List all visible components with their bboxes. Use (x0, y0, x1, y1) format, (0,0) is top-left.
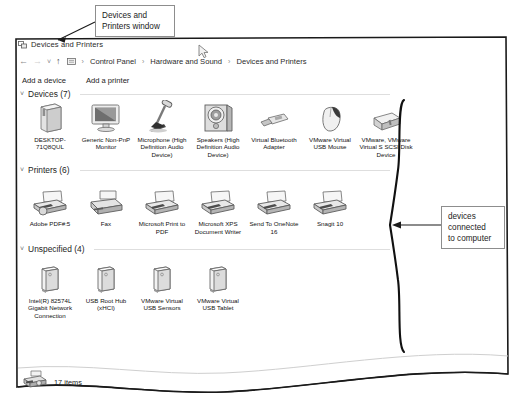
command-toolbar: Add a device Add a printer (14, 72, 510, 88)
chevron-down-icon[interactable]: ˅ (20, 245, 24, 252)
printer-label: Snagit 10 (302, 220, 358, 227)
device-tile[interactable]: Speakers (High Definition Audio Device) (190, 100, 246, 158)
microphone-icon (145, 100, 179, 134)
device-label: Virtual Bluetooth Adapter (246, 136, 302, 151)
devices-printers-icon (18, 40, 27, 49)
navigation-bar: ← → ˅ ↑ › Control Panel › Hardware and S… (14, 53, 510, 70)
chevron-down-icon[interactable]: ˅ (20, 90, 24, 97)
device-tile[interactable]: Microphone (High Definition Audio Device… (134, 100, 190, 158)
chevron-down-icon[interactable]: ˅ (20, 166, 24, 173)
printer-tile[interactable]: Snagit 10 (302, 184, 358, 235)
printer-small-icon (22, 370, 48, 394)
breadcrumb-hardware-and-sound[interactable]: Hardware and Sound (150, 57, 222, 66)
breadcrumb-separator: › (227, 58, 231, 65)
generic-device-icon (93, 261, 119, 295)
unspecified-tile[interactable]: VMware Virtual USB Sensors (134, 261, 190, 319)
callout-devices-connected: devices connected to computer (441, 206, 505, 249)
up-arrow-icon[interactable]: ↑ (56, 57, 61, 66)
group-printers: ˅ Printers (6) (14, 164, 510, 235)
callout-devices-printers-window: Devices and Printers window (95, 5, 175, 37)
group-title-printers: Printers (6) (28, 165, 69, 175)
status-item-count: 17 items (54, 378, 82, 387)
unspecified-label: VMware Virtual USB Tablet (190, 297, 246, 312)
window-titlebar: Devices and Printers (14, 36, 510, 52)
mouse-icon (315, 100, 345, 134)
printer-tile[interactable]: Adobe PDF#:5 (22, 184, 78, 235)
generic-device-icon (37, 261, 63, 295)
printer-tile[interactable]: Microsoft XPS Document Writer (190, 184, 246, 235)
group-header-printers[interactable]: ˅ Printers (6) (14, 164, 510, 176)
group-header-unspecified[interactable]: ˅ Unspecified (4) (14, 243, 510, 255)
usb-dongle-icon (257, 100, 291, 134)
callout-line-2: Printers window (102, 21, 168, 32)
devices-and-printers-window: Devices and Printers ← → ˅ ↑ › Control P… (14, 36, 510, 396)
callout-line-1: devices (448, 211, 498, 222)
unspecified-tile[interactable]: Intel(R) 82574L Gigabit Network Connecti… (22, 261, 78, 319)
group-unspecified: ˅ Unspecified (4) (14, 243, 510, 319)
group-title-devices: Devices (7) (28, 89, 70, 99)
group-header-devices[interactable]: ˅ Devices (7) (14, 88, 510, 100)
printer-icon (199, 184, 237, 218)
callout-line-2: connected (448, 222, 498, 233)
printer-label: Microsoft XPS Document Writer (190, 220, 246, 235)
unspecified-row: Intel(R) 82574L Gigabit Network Connecti… (14, 261, 510, 319)
add-a-device-button[interactable]: Add a device (22, 76, 66, 85)
window-title: Devices and Printers (31, 40, 103, 49)
speaker-icon (202, 100, 234, 134)
group-divider (94, 249, 390, 250)
breadcrumb-control-panel[interactable]: Control Panel (90, 57, 136, 66)
unspecified-label: VMware Virtual USB Sensors (134, 297, 190, 312)
device-tile[interactable]: VMware Virtual USB Mouse (302, 100, 358, 158)
printer-icon (31, 184, 69, 218)
device-label: VMware Virtual USB Mouse (302, 136, 358, 151)
computer-tower-icon (35, 100, 65, 134)
device-list-area: ˅ Devices (7) (14, 88, 510, 370)
breadcrumb-devices-and-printers[interactable]: Devices and Printers (236, 57, 306, 66)
external-disk-icon (370, 100, 402, 134)
printers-row: Adobe PDF#:5 Fax (14, 184, 510, 235)
device-tile[interactable]: Generic Non-PnP Monitor (78, 100, 134, 158)
printer-label: Send To OneNote 16 (246, 220, 302, 235)
printer-label: Adobe PDF#:5 (22, 220, 78, 227)
back-arrow-icon[interactable]: ← (19, 57, 28, 66)
printer-tile[interactable]: Fax (78, 184, 134, 235)
mouse-cursor-icon (198, 44, 210, 60)
generic-device-icon (205, 261, 231, 295)
generic-device-icon (149, 261, 175, 295)
printer-tile[interactable]: Microsoft Print to PDF (134, 184, 190, 235)
device-label: Speakers (High Definition Audio Device) (190, 136, 246, 158)
unspecified-label: USB Root Hub (xHCI) (78, 297, 134, 312)
devices-row: DESKTOP-71Q8QUL Generic (14, 100, 510, 158)
device-label: DESKTOP-71Q8QUL (22, 136, 78, 151)
printer-icon (311, 184, 349, 218)
unspecified-tile[interactable]: USB Root Hub (xHCI) (78, 261, 134, 319)
printer-label: Microsoft Print to PDF (134, 220, 190, 235)
unspecified-label: Intel(R) 82574L Gigabit Network Connecti… (22, 297, 78, 319)
add-a-printer-button[interactable]: Add a printer (86, 76, 129, 85)
device-tile[interactable]: DESKTOP-71Q8QUL (22, 100, 78, 158)
device-label: Generic Non-PnP Monitor (78, 136, 134, 151)
device-label: VMware, VMware Virtual S SCSI Disk Devic… (358, 136, 414, 158)
monitor-icon (89, 100, 123, 134)
fax-icon (87, 184, 125, 218)
group-divider (80, 94, 390, 95)
breadcrumb-separator: › (141, 58, 145, 65)
group-devices: ˅ Devices (7) (14, 88, 510, 158)
printer-tile[interactable]: Send To OneNote 16 (246, 184, 302, 235)
group-divider (80, 170, 390, 171)
callout-line-1: Devices and (102, 10, 168, 21)
control-panel-icon (67, 57, 76, 66)
forward-arrow-icon[interactable]: → (33, 57, 42, 66)
group-title-unspecified: Unspecified (4) (28, 244, 84, 254)
breadcrumb-separator: › (81, 58, 85, 65)
status-bar: 17 items (16, 370, 508, 394)
recent-pages-chevron-icon[interactable]: ˅ (47, 57, 51, 66)
printer-icon (143, 184, 181, 218)
printer-label: Fax (78, 220, 134, 227)
printer-icon (255, 184, 293, 218)
device-tile[interactable]: VMware, VMware Virtual S SCSI Disk Devic… (358, 100, 414, 158)
device-label: Microphone (High Definition Audio Device… (134, 136, 190, 158)
device-tile[interactable]: Virtual Bluetooth Adapter (246, 100, 302, 158)
callout-line-3: to computer (448, 233, 498, 244)
unspecified-tile[interactable]: VMware Virtual USB Tablet (190, 261, 246, 319)
